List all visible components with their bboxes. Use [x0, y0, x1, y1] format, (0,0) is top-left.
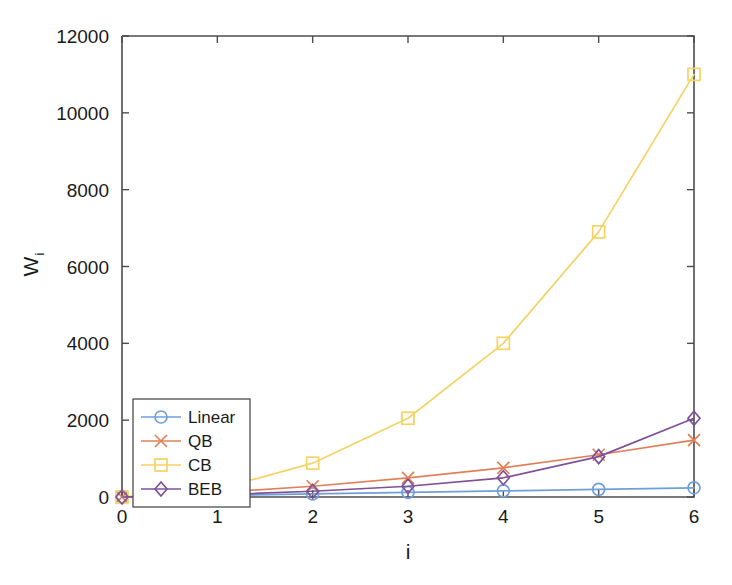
x-tick-label: 4	[498, 506, 509, 527]
legend-label: Linear	[188, 408, 236, 427]
x-tick-label: 5	[593, 506, 604, 527]
legend-label: BEB	[188, 480, 222, 499]
y-tick-label: 0	[98, 487, 109, 508]
y-tick-label: 2000	[67, 410, 109, 431]
y-tick-label: 8000	[67, 180, 109, 201]
legend: LinearQBCBBEB	[133, 399, 250, 507]
y-tick-label: 12000	[56, 26, 109, 47]
x-tick-label: 3	[403, 506, 414, 527]
legend-label: QB	[188, 432, 213, 451]
x-tick-label: 2	[307, 506, 318, 527]
x-tick-label: 6	[689, 506, 700, 527]
x-tick-label: 1	[212, 506, 223, 527]
y-axis-title-subscript: i	[32, 253, 47, 256]
y-tick-label: 4000	[67, 333, 109, 354]
svg-text:W: W	[19, 256, 42, 276]
y-tick-label: 10000	[56, 103, 109, 124]
y-axis-title: Wi	[19, 253, 47, 277]
x-axis-title: i	[406, 540, 411, 563]
x-tick-label: 0	[117, 506, 128, 527]
chart-figure: 0200040006000800010000120000123456iWiLin…	[0, 0, 732, 585]
legend-label: CB	[188, 456, 212, 475]
y-tick-label: 6000	[67, 257, 109, 278]
line-chart: 0200040006000800010000120000123456iWiLin…	[0, 0, 732, 585]
